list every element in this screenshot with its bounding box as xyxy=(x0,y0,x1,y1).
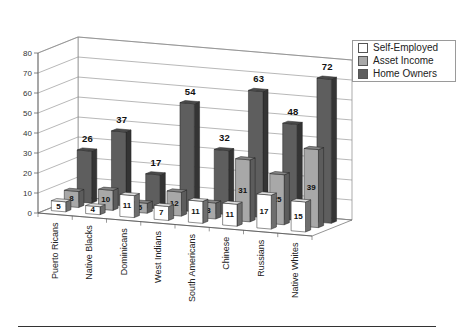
x-tick-label: Native Whites xyxy=(290,242,300,298)
svg-text:11: 11 xyxy=(123,201,132,210)
divider xyxy=(18,326,436,327)
svg-text:20: 20 xyxy=(23,169,32,178)
svg-text:32: 32 xyxy=(219,132,230,143)
x-tick-label: Dominicans xyxy=(119,228,129,276)
svg-text:48: 48 xyxy=(288,106,299,117)
svg-text:30: 30 xyxy=(23,149,32,158)
svg-text:4: 4 xyxy=(91,205,96,214)
svg-text:40: 40 xyxy=(23,129,32,138)
svg-text:60: 60 xyxy=(23,89,32,98)
x-tick-label: Russians xyxy=(256,239,266,277)
svg-text:17: 17 xyxy=(151,157,162,168)
svg-text:37: 37 xyxy=(116,114,127,125)
svg-text:80: 80 xyxy=(23,49,32,58)
bar: 7 xyxy=(154,203,174,220)
bar: 11 xyxy=(120,192,140,217)
x-tick-label: Chinese xyxy=(221,237,231,270)
svg-text:11: 11 xyxy=(226,210,235,219)
bar: 17 xyxy=(257,192,277,229)
svg-text:15: 15 xyxy=(294,212,303,221)
svg-text:31: 31 xyxy=(238,186,247,195)
svg-text:0: 0 xyxy=(28,209,33,218)
bar: 5 xyxy=(51,199,71,212)
svg-text:39: 39 xyxy=(307,183,316,192)
bar: 11 xyxy=(223,201,243,226)
svg-text:63: 63 xyxy=(253,73,264,84)
legend-item-self-employed: Self-Employed xyxy=(353,41,455,54)
legend-label: Asset Income xyxy=(373,55,434,66)
bar: 11 xyxy=(188,198,208,223)
legend-swatch xyxy=(358,56,368,66)
bar: 15 xyxy=(291,199,311,232)
svg-text:54: 54 xyxy=(185,86,196,97)
legend-swatch xyxy=(358,69,368,79)
svg-text:5: 5 xyxy=(56,202,61,211)
legend-item-home-owners: Home Owners xyxy=(353,67,455,80)
svg-text:11: 11 xyxy=(191,207,200,216)
legend-label: Self-Employed xyxy=(373,42,438,53)
x-tick-label: South Americans xyxy=(187,233,197,302)
svg-text:7: 7 xyxy=(159,208,164,217)
svg-text:50: 50 xyxy=(23,109,32,118)
svg-text:17: 17 xyxy=(260,207,269,216)
legend-label: Home Owners xyxy=(373,68,437,79)
svg-text:72: 72 xyxy=(322,61,333,72)
y-axis: 01020304050607080 xyxy=(23,49,38,218)
x-tick-label: Native Blacks xyxy=(84,225,94,280)
x-tick-label: Puerto Ricans xyxy=(50,222,60,279)
svg-text:10: 10 xyxy=(101,195,110,204)
legend-swatch xyxy=(358,43,368,53)
svg-text:10: 10 xyxy=(23,189,32,198)
svg-text:70: 70 xyxy=(23,69,32,78)
bar: 4 xyxy=(86,203,106,214)
legend-item-asset-income: Asset Income xyxy=(353,54,455,67)
svg-text:26: 26 xyxy=(82,133,93,144)
chart-legend: Self-Employed Asset Income Home Owners xyxy=(352,40,456,82)
x-tick-label: West Indians xyxy=(153,231,163,283)
